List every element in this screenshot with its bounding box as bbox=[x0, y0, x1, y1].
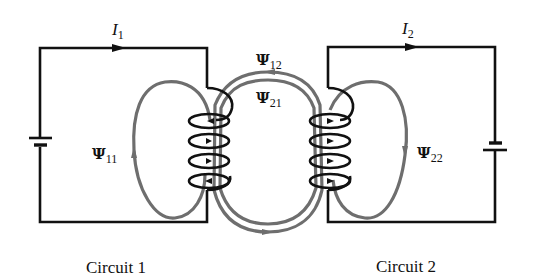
arrow-icon bbox=[131, 146, 137, 158]
flux-label-psi22: Ψ22 bbox=[417, 143, 443, 166]
flux-label-psi12: Ψ12 bbox=[256, 50, 282, 73]
arrow-icon bbox=[402, 146, 408, 158]
battery-icon bbox=[29, 138, 52, 145]
coupled-circuits-diagram bbox=[0, 0, 537, 280]
flux-psi11 bbox=[134, 82, 210, 218]
circuit-2-wires bbox=[328, 47, 495, 222]
flux-label-psi21: Ψ21 bbox=[256, 88, 282, 111]
arrow-icon bbox=[262, 229, 274, 235]
current-label-i2: I2 bbox=[402, 19, 414, 42]
caption-circuit-2: Circuit 2 bbox=[376, 257, 436, 277]
arrow-icon bbox=[405, 43, 419, 51]
current-label-i1: I1 bbox=[112, 20, 124, 43]
arrow-icon bbox=[112, 44, 126, 52]
flux-label-psi11: Ψ11 bbox=[92, 144, 117, 167]
battery-icon bbox=[483, 143, 507, 150]
caption-circuit-1: Circuit 1 bbox=[86, 258, 146, 278]
coil-icon bbox=[189, 114, 229, 188]
flux-psi22 bbox=[330, 82, 406, 219]
